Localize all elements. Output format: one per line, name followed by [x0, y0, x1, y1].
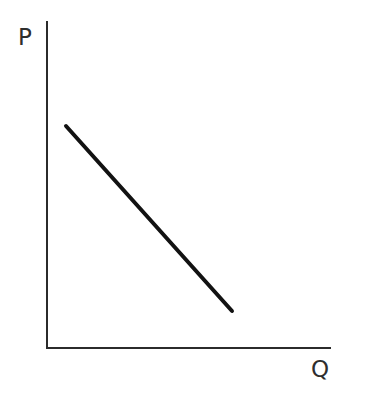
x-axis-label: Q [311, 358, 330, 381]
demand-curve-figure: P Q [0, 0, 366, 401]
y-axis-label: P [18, 26, 32, 49]
plot-area [0, 0, 366, 401]
demand-curve-line [66, 126, 232, 311]
